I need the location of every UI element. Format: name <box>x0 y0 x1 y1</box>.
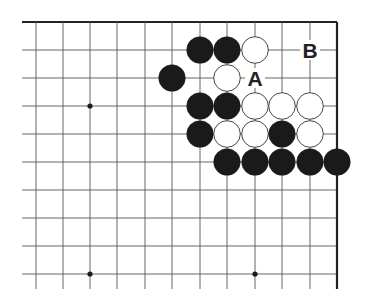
white-stone <box>297 121 324 148</box>
point-label-b: B <box>302 39 317 62</box>
stones <box>159 37 351 176</box>
black-stone <box>159 65 186 92</box>
star-point <box>87 103 92 108</box>
black-stone <box>214 93 241 120</box>
black-stone <box>324 149 351 176</box>
star-point <box>87 271 92 276</box>
go-board: AB <box>0 0 375 305</box>
black-stone <box>269 121 296 148</box>
white-stone <box>269 93 296 120</box>
black-stone <box>187 93 214 120</box>
black-stone <box>187 37 214 64</box>
white-stone <box>214 65 241 92</box>
white-stone <box>214 121 241 148</box>
black-stone <box>214 149 241 176</box>
black-stone <box>214 37 241 64</box>
black-stone <box>269 149 296 176</box>
black-stone <box>297 149 324 176</box>
star-point <box>252 271 257 276</box>
white-stone <box>297 93 324 120</box>
point-label-a: A <box>247 67 262 90</box>
black-stone <box>242 149 269 176</box>
white-stone <box>242 93 269 120</box>
black-stone <box>187 121 214 148</box>
white-stone <box>242 121 269 148</box>
white-stone <box>242 37 269 64</box>
